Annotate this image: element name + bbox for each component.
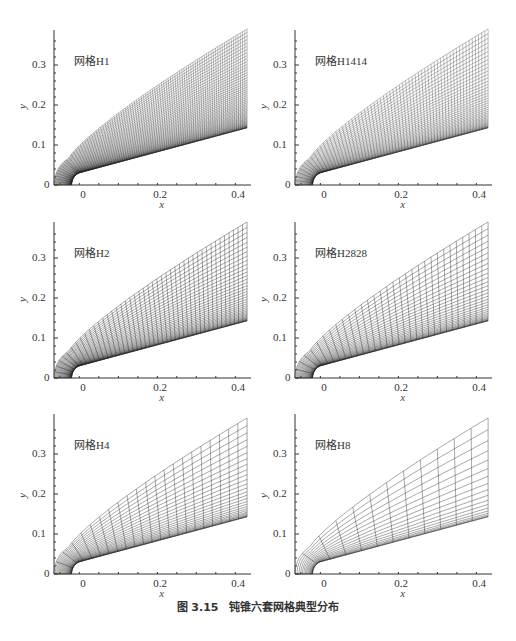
- grid-label: 网格H8: [315, 440, 350, 451]
- figure-caption: 图 3.15 钝锥六套网格典型分布: [0, 598, 516, 614]
- y-tick-label: 0.1: [273, 528, 287, 539]
- y-axis-label: y: [258, 493, 269, 498]
- x-tick-label: 0: [321, 578, 327, 589]
- y-tick-label: 0: [285, 568, 291, 579]
- x-tick-label: 0.4: [472, 578, 486, 589]
- y-tick-label: 0.3: [273, 448, 287, 459]
- y-tick-label: 0.2: [273, 488, 287, 499]
- mesh-plot: [0, 0, 516, 641]
